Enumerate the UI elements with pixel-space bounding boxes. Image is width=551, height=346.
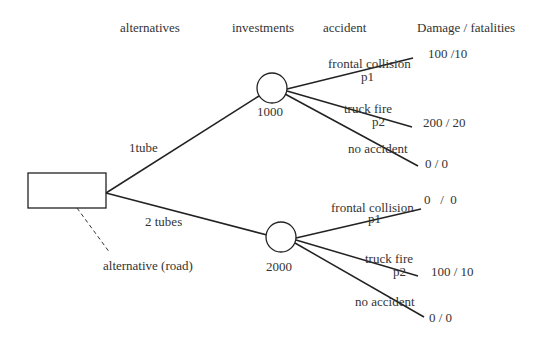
prob-2-p1: p1 <box>368 211 381 226</box>
prob-1-p2: p2 <box>372 114 385 129</box>
prob-2-p2: p2 <box>393 264 406 279</box>
header-accident: accident <box>323 20 367 35</box>
chance-node-1000 <box>257 73 287 103</box>
decision-tree: alternatives investments accident Damage… <box>0 0 551 346</box>
damage-2-frontal-collision: 0 / 0 <box>424 192 457 207</box>
accident-2-no-accident: no accident <box>355 294 415 309</box>
decision-node-annotation: alternative (road) <box>103 258 193 273</box>
damage-2-no-accident: 0 / 0 <box>429 310 452 325</box>
decision-node <box>28 173 106 208</box>
chance-node-2000 <box>266 222 296 252</box>
annotation-leader-line <box>77 208 110 253</box>
branch-label-1tube: 1tube <box>129 140 158 155</box>
header-investments: investments <box>232 20 294 35</box>
branch-2tubes <box>106 193 267 235</box>
prob-1-p1: p1 <box>361 69 374 84</box>
damage-1-frontal-collision: 100 /10 <box>428 46 467 61</box>
accident-1-no-accident: no accident <box>348 141 408 156</box>
damage-1-no-accident: 0 / 0 <box>425 156 448 171</box>
investment-2000: 2000 <box>266 259 292 274</box>
investment-1000: 1000 <box>257 104 283 119</box>
branch-label-2tubes: 2 tubes <box>145 214 182 229</box>
damage-1-truck-fire: 200 / 20 <box>423 115 466 130</box>
header-alternatives: alternatives <box>120 20 180 35</box>
header-damage-fatalities: Damage / fatalities <box>417 20 515 35</box>
damage-2-truck-fire: 100 / 10 <box>431 264 474 279</box>
